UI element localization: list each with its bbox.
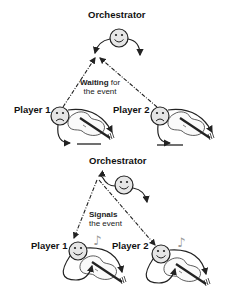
player1-violin-icon <box>68 112 114 140</box>
panel-waiting <box>51 29 214 145</box>
player2-idle-arrow <box>158 125 170 143</box>
orchestrator-smile-face-icon <box>110 29 128 47</box>
player1-frown-face-icon <box>51 107 69 125</box>
player2-label: Player 2 <box>113 104 149 115</box>
caption-rest: for <box>109 78 121 87</box>
player1-label: Player 1 <box>31 240 67 251</box>
orchestrator-cycle-arrow-left <box>95 39 110 53</box>
player1-idle-arrow <box>58 125 70 143</box>
diagram-canvas: ♪ ♪ <box>0 0 238 306</box>
player1-label: Player 1 <box>14 104 50 115</box>
orchestrator-smile-face-icon <box>115 176 133 194</box>
player2-violin-icon <box>164 258 210 286</box>
orchestrator-continue-arrow <box>133 188 147 202</box>
player1-violin-icon <box>80 256 126 284</box>
panel-signaled: ♪ ♪ <box>63 176 210 286</box>
caption-line2: the event <box>84 87 117 96</box>
caption-bold: Waiting <box>80 78 109 87</box>
orchestrator-signal-arrow <box>99 176 115 186</box>
player2-label: Player 2 <box>112 240 148 251</box>
orchestrator-label: Orchestrator <box>88 9 146 20</box>
signal-to-player1-arrow <box>74 180 97 238</box>
caption-bold: Signals <box>89 210 117 219</box>
player2-violin-icon <box>168 112 214 140</box>
player2-music-note-icon: ♪ <box>177 235 185 250</box>
orchestrator-cycle-arrow-right <box>128 39 140 55</box>
player1-music-note-icon: ♪ <box>93 233 101 248</box>
signals-caption: Signals the event <box>89 210 122 228</box>
waiting-caption: Waiting for the event <box>80 78 120 96</box>
caption-line2: the event <box>89 219 122 228</box>
player2-smile-face-icon <box>152 245 170 263</box>
orchestrator-label: Orchestrator <box>89 155 147 166</box>
player1-smile-face-icon <box>69 242 87 260</box>
player2-frown-face-icon <box>151 107 169 125</box>
